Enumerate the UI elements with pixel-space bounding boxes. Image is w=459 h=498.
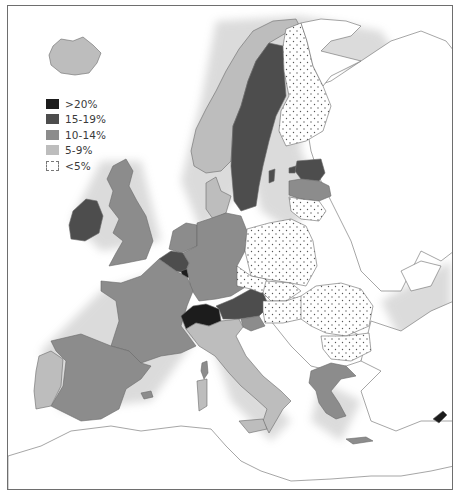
region-corsica [201, 361, 208, 379]
legend-label: <5% [65, 160, 91, 172]
legend-swatch-dotted [46, 161, 59, 171]
legend-swatch [46, 130, 59, 140]
legend-label: 10-14% [65, 129, 106, 141]
legend-swatch [46, 145, 59, 155]
region-poland [245, 219, 317, 286]
legend-label: 5-9% [65, 144, 93, 156]
legend-label: >20% [65, 98, 98, 110]
region-crete [346, 437, 373, 444]
europe-map [8, 6, 453, 490]
legend-item-10-14: 10-14% [46, 127, 106, 143]
region-slovenia [241, 316, 265, 331]
legend: >20% 15-19% 10-14% 5-9% <5% [46, 96, 106, 174]
region-italy [186, 319, 291, 433]
map-frame: >20% 15-19% 10-14% 5-9% <5% [7, 5, 453, 490]
legend-item-over-20: >20% [46, 96, 106, 112]
region-sardinia [197, 379, 207, 411]
region-iceland [49, 37, 101, 75]
legend-item-under-5: <5% [46, 158, 106, 174]
legend-item-15-19: 15-19% [46, 112, 106, 128]
legend-swatch [46, 99, 59, 109]
legend-label: 15-19% [65, 113, 106, 125]
legend-swatch [46, 114, 59, 124]
legend-item-5-9: 5-9% [46, 143, 106, 159]
